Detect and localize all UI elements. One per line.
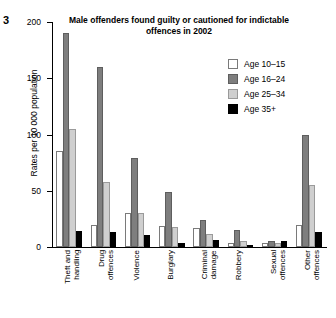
legend-swatch	[228, 89, 238, 99]
y-tick-label: 150	[27, 73, 41, 83]
x-axis-category-labels: Theft and handlingDrug offencesViolenceB…	[52, 250, 327, 318]
y-tick: 150	[47, 78, 52, 79]
bar	[247, 245, 253, 247]
category-label: Violence	[133, 250, 142, 281]
bar-group	[122, 22, 156, 247]
legend-item: Age 35+	[228, 101, 332, 116]
y-tick: 200	[47, 22, 52, 23]
category-label: Sexual offences	[270, 250, 288, 280]
category-label: Burglary	[167, 250, 176, 280]
legend-swatch	[228, 59, 238, 69]
y-tick-label: 200	[27, 17, 41, 27]
bar	[76, 231, 82, 247]
legend-item: Age 10–15	[228, 56, 332, 71]
x-axis-line	[52, 247, 327, 248]
legend-label: Age 16–24	[244, 74, 285, 84]
figure-number: 3	[3, 14, 9, 26]
bar	[281, 241, 287, 247]
y-axis-label: Rates per 10 000 population	[29, 43, 39, 203]
category-label: Drug offences	[98, 250, 116, 280]
y-tick-label: 100	[27, 130, 41, 140]
y-tick: 50	[47, 191, 52, 192]
category-label: Theft and handling	[64, 250, 82, 284]
legend-swatch	[228, 104, 238, 114]
legend-item: Age 25–34	[228, 86, 332, 101]
y-tick-label: 0	[36, 242, 41, 252]
legend-swatch	[228, 74, 238, 84]
legend-label: Age 35+	[244, 104, 276, 114]
bar	[213, 240, 219, 247]
bar-group	[156, 22, 190, 247]
bar	[69, 129, 75, 247]
bar-group	[190, 22, 224, 247]
y-tick-label: 50	[32, 186, 41, 196]
bar	[144, 235, 150, 247]
chart-figure: 3 Male offenders found guilty or caution…	[0, 0, 336, 318]
legend-label: Age 25–34	[244, 89, 285, 99]
category-label: Robbery	[235, 250, 244, 280]
bar	[110, 232, 116, 247]
bar-group	[87, 22, 121, 247]
y-tick: 0	[47, 247, 52, 248]
category-label: Criminal damage	[201, 250, 219, 279]
bar	[178, 243, 184, 248]
chart-legend: Age 10–15Age 16–24Age 25–34Age 35+	[228, 56, 332, 116]
category-label: Other offences	[304, 250, 322, 280]
legend-item: Age 16–24	[228, 71, 332, 86]
legend-label: Age 10–15	[244, 59, 285, 69]
bar	[315, 232, 321, 247]
y-tick: 100	[47, 135, 52, 136]
bar-group	[53, 22, 87, 247]
